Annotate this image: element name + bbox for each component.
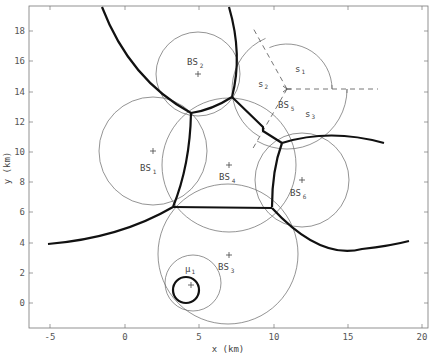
bs3-marker-icon (226, 252, 232, 258)
boundary-bs1-bs4 (173, 113, 191, 207)
boundary-bs1-bs3 (48, 207, 173, 244)
boundary-bs3-bs4 (173, 207, 272, 208)
bs2-marker-icon (195, 71, 201, 77)
bs2-label: BS2 (187, 57, 204, 69)
bs5-sectors (232, 28, 378, 150)
bs1-marker-icon (150, 148, 156, 154)
sector-s2-label: s2 (258, 79, 268, 90)
sector-s3-label: s3 (305, 109, 315, 120)
y-tick-label: 10 (14, 147, 25, 157)
y-tick-label: 12 (14, 117, 25, 127)
user-coverage-circle (165, 255, 221, 311)
x-tick-label: 0 (122, 332, 127, 342)
x-tick-label: 10 (269, 332, 280, 342)
boundary-bs4-bs6 (272, 143, 282, 207)
bs1-label: BS1 (140, 163, 157, 175)
user-marker-icon (188, 282, 194, 288)
bs3-coverage-circle (158, 184, 298, 324)
bs4-marker-icon (226, 162, 232, 168)
bs3-label: BS3 (218, 262, 235, 274)
y-tick-label: 8 (20, 177, 25, 187)
user-label: μ1 (185, 264, 195, 275)
bs6-label: BS6 (290, 188, 307, 200)
bs4-label: BS4 (219, 172, 236, 184)
sector-s1-label: s1 (295, 64, 305, 75)
bs6-marker-icon (299, 177, 305, 183)
axes-frame (29, 6, 428, 328)
x-tick-label: -5 (45, 332, 56, 342)
x-axis-label: x (km) (212, 344, 245, 354)
x-tick-label: 20 (417, 332, 428, 342)
bs5-center-marker (283, 86, 291, 92)
y-tick-label: 2 (20, 268, 25, 278)
y-tick-label: 6 (20, 207, 25, 217)
x-tick-label: 15 (343, 332, 354, 342)
labels: BS1 BS2 BS3 BS4 BS5 BS6 s1 s2 s3 μ1 (140, 57, 315, 275)
y-tick-label: 0 (20, 298, 25, 308)
user-region-circle (173, 277, 199, 303)
x-tick-label: 5 (196, 332, 201, 342)
sector-s1-arc (269, 44, 332, 89)
sector-s3-arc (257, 89, 347, 149)
cell-boundaries (48, 7, 409, 303)
boundary-bs3-bs6 (272, 208, 409, 251)
boundary-bs5-bs6 (282, 136, 384, 144)
boundary-bs2-bs5 (229, 7, 237, 97)
y-axis-label: y (km) (2, 152, 12, 185)
bs5-label: BS5 (278, 100, 295, 112)
y-tick-label: 16 (14, 56, 25, 66)
y-tick-label: 14 (14, 87, 25, 97)
network-diagram: -5 0 5 10 15 20 x (km) 0 2 4 6 8 10 12 (0, 0, 434, 355)
y-tick-label: 18 (14, 26, 25, 36)
y-tick-label: 4 (20, 238, 25, 248)
